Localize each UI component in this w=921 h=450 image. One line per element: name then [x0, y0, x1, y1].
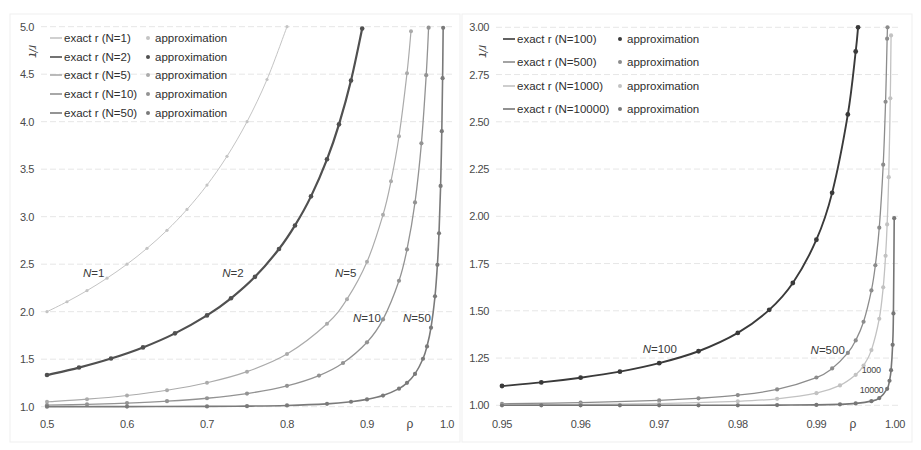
- data-point-marker: [881, 163, 885, 167]
- data-point-marker: [854, 338, 858, 342]
- data-point-marker: [883, 100, 887, 104]
- data-point-marker: [885, 25, 889, 29]
- data-point-marker: [696, 349, 701, 354]
- legend-label-exact: exact r (N=50): [64, 107, 137, 119]
- chart-frame: [462, 14, 912, 442]
- data-point-marker: [767, 307, 772, 312]
- data-point-marker: [877, 317, 881, 321]
- data-point-marker: [45, 405, 49, 409]
- x-axis-label: ρ: [850, 417, 857, 431]
- legend-marker-swatch: [146, 36, 150, 40]
- data-point-marker: [873, 263, 877, 267]
- data-point-marker: [441, 76, 445, 80]
- data-point-marker: [846, 351, 850, 355]
- data-point-marker: [245, 370, 249, 374]
- data-point-marker: [888, 96, 892, 100]
- data-point-marker: [45, 373, 50, 378]
- data-point-marker: [165, 229, 168, 232]
- y-tick-label: 2.75: [469, 69, 489, 81]
- data-point-marker: [735, 331, 740, 336]
- data-point-marker: [345, 297, 349, 301]
- data-point-marker: [349, 400, 353, 404]
- data-point-marker: [775, 403, 779, 407]
- data-point-marker: [500, 384, 505, 389]
- data-point-marker: [409, 29, 413, 33]
- data-point-marker: [439, 184, 443, 188]
- legend-label-approximation: approximation: [627, 33, 699, 45]
- data-point-marker: [889, 368, 893, 372]
- x-axis-label: ρ: [407, 417, 414, 431]
- data-point-marker: [65, 300, 68, 303]
- data-point-marker: [618, 369, 623, 374]
- legend-label-approximation: approximation: [155, 51, 227, 63]
- legend-label-approximation: approximation: [627, 56, 699, 68]
- x-tick-label: 0.98: [728, 418, 748, 430]
- data-point-marker: [173, 331, 178, 336]
- legend-row: exact r (N=500) approximation: [503, 56, 699, 68]
- data-point-marker: [360, 26, 365, 31]
- approximation-markers-n-10000: [500, 216, 896, 407]
- data-point-marker: [125, 393, 129, 397]
- y-tick-label: 3.00: [469, 21, 489, 33]
- data-point-marker: [696, 403, 700, 407]
- y-tick-label: 3.5: [20, 163, 34, 175]
- data-point-marker: [413, 372, 417, 376]
- curve-label: 10000: [860, 385, 884, 395]
- data-point-marker: [365, 397, 369, 401]
- y-tick-label: 2.00: [469, 210, 489, 222]
- x-tick-label: 0.6: [120, 418, 134, 430]
- data-point-marker: [657, 403, 661, 407]
- x-tick-label: 0.97: [649, 418, 669, 430]
- y-tick-label: 1.50: [469, 305, 489, 317]
- data-point-marker: [285, 403, 289, 407]
- legend-marker-swatch: [618, 107, 622, 111]
- legend-marker-swatch: [618, 37, 622, 41]
- data-point-marker: [381, 393, 385, 397]
- data-point-marker: [437, 231, 441, 235]
- data-point-marker: [657, 361, 662, 366]
- curve-label: N=1: [83, 267, 104, 279]
- data-point-marker: [405, 381, 409, 385]
- data-point-marker: [205, 183, 208, 186]
- legend-marker-swatch: [146, 92, 150, 96]
- data-point-marker: [891, 343, 895, 347]
- y-tick-label: 1.75: [469, 258, 489, 270]
- data-point-marker: [341, 361, 345, 365]
- legend-row: exact r (N=2) approximation: [50, 51, 227, 63]
- y-tick-label: 1.25: [469, 352, 489, 364]
- curve-label: N=500: [811, 344, 845, 356]
- data-point-marker: [830, 366, 834, 370]
- data-point-marker: [325, 322, 329, 326]
- chart-left: 1.01.52.02.53.03.54.04.55.0 0.50.60.70.8…: [10, 14, 460, 442]
- data-point-marker: [736, 399, 740, 403]
- legend-label-approximation: approximation: [627, 103, 699, 115]
- data-point-marker: [109, 356, 114, 361]
- data-point-marker: [325, 402, 329, 406]
- data-point-marker: [854, 401, 858, 405]
- legend-row: exact r (N=10) approximation: [50, 88, 227, 100]
- data-point-marker: [433, 294, 437, 298]
- y-tick-label: 3.0: [20, 211, 34, 223]
- x-tick-label: 0.95: [492, 418, 512, 430]
- exact-curve-n-50: [47, 28, 443, 407]
- approximation-markers-n-50: [45, 26, 445, 409]
- data-point-marker: [85, 289, 88, 292]
- data-point-marker: [838, 402, 842, 406]
- data-point-marker: [539, 403, 543, 407]
- data-point-marker: [365, 260, 369, 264]
- y-tick-label: 5.0: [20, 21, 34, 33]
- data-point-marker: [309, 194, 314, 199]
- chart-right: 1.001.251.501.752.002.252.502.753.00 0.9…: [462, 14, 912, 442]
- data-point-marker: [814, 375, 818, 379]
- data-point-marker: [869, 399, 873, 403]
- data-point-marker: [245, 120, 248, 123]
- data-point-marker: [854, 373, 858, 377]
- data-point-marker: [397, 387, 401, 391]
- legend-label-exact: exact r (N=100): [517, 33, 597, 45]
- x-tick-label: 1.00: [885, 418, 905, 430]
- data-point-marker: [225, 155, 228, 158]
- data-point-marker: [775, 397, 779, 401]
- legend-row: exact r (N=1) approximation: [50, 32, 227, 44]
- data-point-marker: [325, 157, 330, 162]
- data-point-marker: [869, 288, 873, 292]
